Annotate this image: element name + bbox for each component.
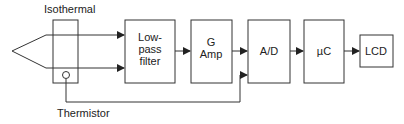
gamp-line2: Amp	[200, 48, 223, 60]
thermocouple-junction	[12, 35, 46, 68]
isothermal-label: Isothermal	[44, 3, 95, 15]
thermistor-label: Thermistor	[57, 107, 110, 119]
isothermal-block	[53, 20, 78, 83]
lowpass-line3: filter	[140, 55, 161, 67]
lcd-label: LCD	[365, 45, 387, 57]
uc-label: µC	[317, 45, 331, 57]
block-diagram: Isothermal Thermistor Low- pass filter G…	[0, 0, 404, 124]
adc-label: A/D	[260, 45, 278, 57]
lowpass-line2: pass	[138, 43, 162, 55]
lowpass-line1: Low-	[138, 31, 162, 43]
gamp-line1: G	[207, 36, 216, 48]
thermistor-icon	[63, 72, 70, 79]
thermistor-wire	[66, 75, 247, 102]
